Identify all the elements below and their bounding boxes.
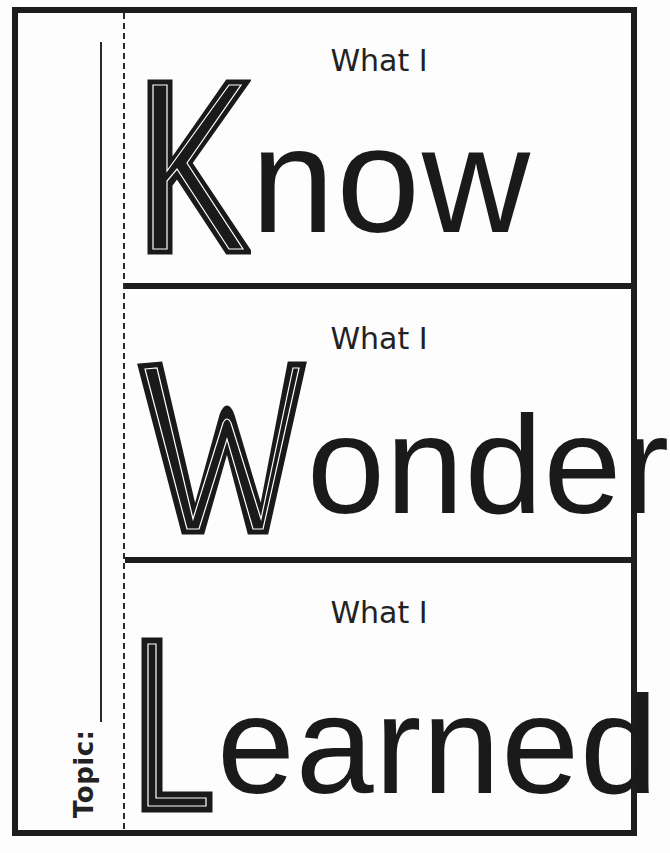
topic-write-line[interactable] [100,42,102,722]
section-word: now [141,77,532,257]
letter-w-outline-icon [137,359,307,535]
section-prefix: What I [127,43,631,78]
letter-k-outline-icon [141,77,251,257]
section-wonder: What I onder [127,289,631,557]
section-learned: What I earned [127,563,631,824]
section-prefix: What I [127,595,631,630]
section-prefix: What I [127,321,631,356]
fold-line [123,13,125,829]
letter-l-outline-icon [137,635,217,815]
section-know: What I now [127,13,631,283]
topic-label: Topic: [68,728,100,818]
section-word: earned [137,635,659,815]
section-word: onder [137,359,670,535]
